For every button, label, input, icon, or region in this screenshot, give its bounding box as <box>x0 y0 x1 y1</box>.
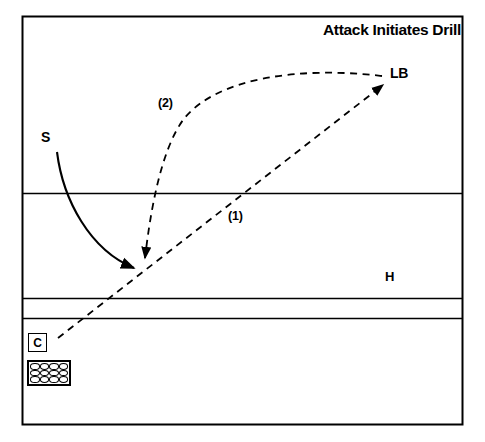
ball-cart <box>27 360 71 386</box>
ball-icon <box>30 363 40 370</box>
player-label-left-back: LB <box>390 66 408 80</box>
player-label-hitter: H <box>385 270 394 283</box>
ball-icon <box>30 370 40 377</box>
ball-icon <box>40 370 50 377</box>
drill-diagram: Attack Initiates Drill LB S H (1) (2) C <box>0 0 485 442</box>
ball-icon <box>59 363 69 370</box>
coach-marker: C <box>28 333 47 352</box>
ball-grid <box>30 363 68 383</box>
page-title: Attack Initiates Drill <box>323 22 461 38</box>
ball-icon <box>40 363 50 370</box>
movement-step-label-1: (1) <box>228 210 243 223</box>
coach-marker-label: C <box>33 337 42 349</box>
ball-icon <box>49 376 59 383</box>
ball-icon <box>59 376 69 383</box>
player-label-setter: S <box>41 130 50 144</box>
ball-icon <box>59 370 69 377</box>
ball-icon <box>30 376 40 383</box>
ball-icon <box>49 370 59 377</box>
movement-step-label-2: (2) <box>158 97 173 110</box>
ball-icon <box>40 376 50 383</box>
ball-icon <box>49 363 59 370</box>
